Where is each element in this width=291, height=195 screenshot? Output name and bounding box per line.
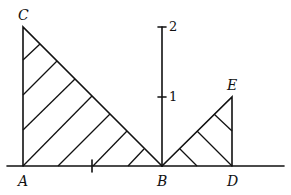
triangle-acb-hatching	[23, 44, 144, 166]
label-d: D	[226, 173, 238, 189]
label-b: B	[156, 173, 167, 189]
diagram-canvas: C A B D E 2 1	[0, 0, 291, 195]
axis-label-1: 1	[169, 89, 177, 104]
axis-label-2: 2	[169, 19, 177, 34]
label-c: C	[18, 7, 29, 23]
label-e: E	[226, 77, 237, 93]
label-a: A	[16, 173, 28, 189]
